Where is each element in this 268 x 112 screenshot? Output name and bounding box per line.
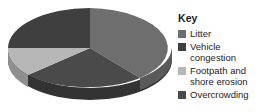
legend-item-vehicle-congestion[interactable]: Vehicle congestion [178, 41, 268, 63]
legend-label-footpath-shore-erosion: Footpath and shore erosion [190, 65, 248, 87]
legend-swatch-overcrowding [178, 91, 186, 99]
pie-top-face [8, 8, 168, 87]
pie-slice-vehicle-congestion[interactable] [8, 8, 90, 48]
legend-label-litter: Litter [190, 28, 211, 39]
pie-chart-figure: Key Litter Vehicle congestion Footpath a… [0, 0, 268, 112]
legend-swatch-vehicle-congestion [178, 43, 186, 51]
legend: Key Litter Vehicle congestion Footpath a… [178, 12, 268, 102]
legend-title: Key [178, 12, 268, 24]
legend-swatch-footpath-shore-erosion [178, 67, 186, 75]
legend-swatch-litter [178, 30, 186, 38]
pie-chart-svg [0, 0, 182, 112]
legend-label-vehicle-congestion: Vehicle congestion [190, 41, 236, 63]
legend-item-overcrowding[interactable]: Overcrowding [178, 89, 268, 100]
legend-label-overcrowding: Overcrowding [190, 89, 249, 100]
legend-item-litter[interactable]: Litter [178, 28, 268, 39]
legend-item-footpath-shore-erosion[interactable]: Footpath and shore erosion [178, 65, 268, 87]
pie-chart-graphic [0, 0, 182, 112]
